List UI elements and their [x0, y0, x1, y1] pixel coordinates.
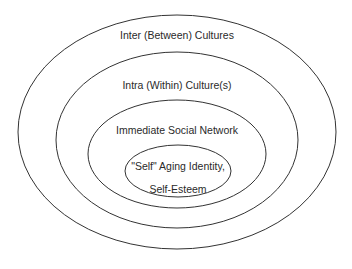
label-self-identity: "Self" Aging Identity,	[131, 160, 225, 172]
nested-ellipse-diagram: Inter (Between) Cultures Intra (Within) …	[0, 0, 352, 269]
label-inter-cultures: Inter (Between) Cultures	[120, 29, 234, 41]
label-social-network: Immediate Social Network	[116, 124, 239, 136]
label-self-esteem: Self-Esteem	[149, 183, 206, 195]
label-intra-culture: Intra (Within) Culture(s)	[122, 79, 231, 91]
